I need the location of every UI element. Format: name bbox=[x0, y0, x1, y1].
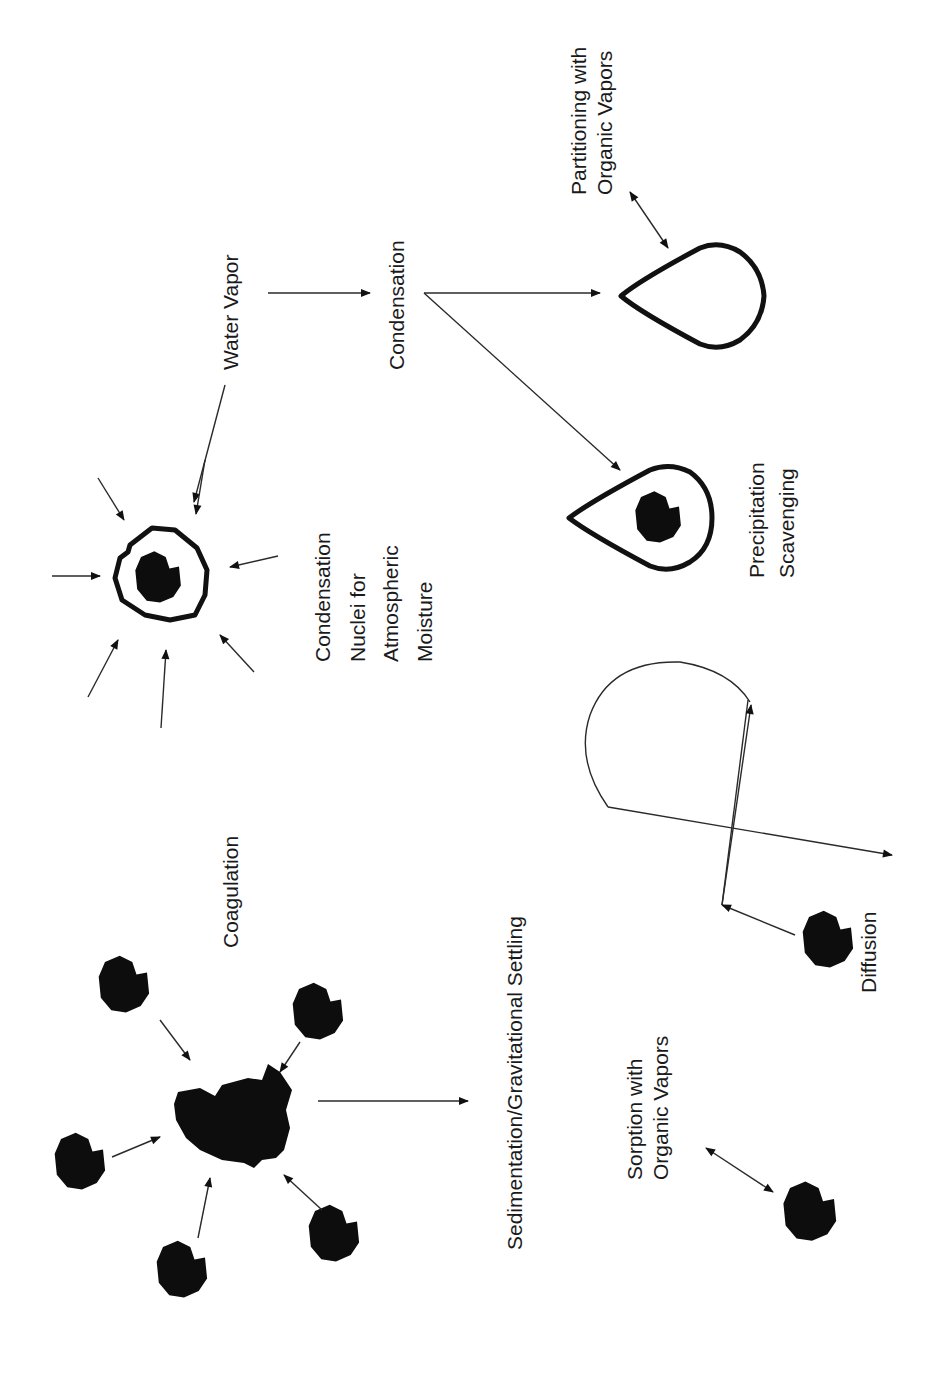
condensation-to-scavenging-arrow bbox=[424, 293, 620, 470]
scavenging-droplet-icon bbox=[569, 466, 712, 569]
sorption-double-arrow bbox=[706, 1148, 773, 1192]
label-diffusion: Diffusion bbox=[857, 912, 880, 993]
label-sorption-line1: Sorption with bbox=[623, 1059, 646, 1180]
label-nuclei-line3: Atmospheric bbox=[379, 545, 402, 662]
label-nuclei-line1: Condensation bbox=[311, 532, 334, 662]
label-coagulation: Coagulation bbox=[219, 836, 242, 948]
label-precip-line1: Precipitation bbox=[745, 462, 768, 578]
label-nuclei-line4: Moisture bbox=[413, 581, 436, 662]
diffusing-particle-icon bbox=[803, 911, 853, 968]
droplet-icon bbox=[621, 245, 764, 347]
label-nuclei-line2: Nuclei for bbox=[346, 573, 369, 662]
label-partitioning-line2: Organic Vapors bbox=[593, 51, 616, 195]
diffusion-path bbox=[585, 662, 892, 935]
label-partitioning-line1: Partitioning with bbox=[567, 47, 590, 195]
partitioning-double-arrow bbox=[630, 192, 668, 248]
label-water-vapor: Water Vapor bbox=[219, 254, 242, 370]
sorption-particle-icon bbox=[783, 1181, 836, 1240]
condensation-nucleus-icon bbox=[115, 528, 207, 620]
aerosol-processes-diagram: Water Vapor Condensation Partitioning wi… bbox=[0, 0, 948, 1373]
label-sedimentation: Sedimentation/Gravitational Settling bbox=[503, 916, 526, 1250]
label-sorption-line2: Organic Vapors bbox=[649, 1036, 672, 1180]
label-condensation: Condensation bbox=[385, 240, 408, 370]
label-precip-line2: Scavenging bbox=[775, 468, 798, 578]
water-to-nuclei-arrow bbox=[194, 385, 225, 502]
coagulated-aggregate-icon bbox=[174, 1064, 292, 1168]
